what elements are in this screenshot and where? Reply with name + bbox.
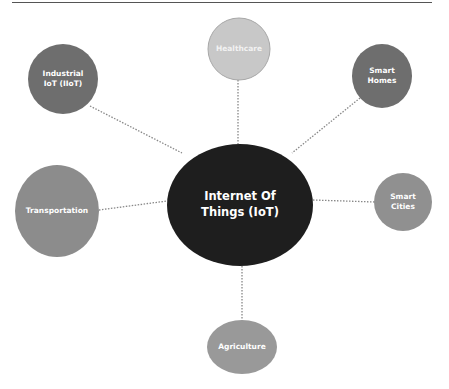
- connector-industrial-iot: [90, 106, 182, 153]
- agriculture-label: Agriculture: [207, 338, 277, 356]
- industrial-iot-label: Industrial IoT (IIoT): [28, 64, 98, 94]
- healthcare-label: Healthcare: [208, 40, 270, 58]
- connector-transportation: [99, 201, 167, 210]
- smart-homes-label: Smart Homes: [352, 61, 412, 91]
- center-label: Internet Of Things (IoT): [167, 180, 313, 230]
- connector-smart-homes: [292, 98, 360, 153]
- center-label-line1: Internet Of: [204, 189, 276, 205]
- center-label-line2: Things (IoT): [201, 205, 279, 221]
- transportation-label: Transportation: [15, 202, 99, 220]
- connector-smart-cities: [313, 200, 375, 202]
- smart-cities-label: Smart Cities: [374, 187, 432, 217]
